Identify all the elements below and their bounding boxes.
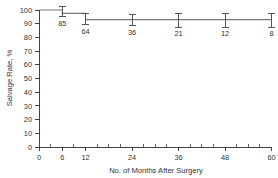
x-tick-label-48: 48 bbox=[221, 153, 229, 162]
x-tick-label-12: 12 bbox=[81, 153, 89, 162]
n-at-risk-group: 85 64 36 21 12 8 bbox=[58, 19, 273, 39]
y-tick-label-90: 90 bbox=[24, 19, 32, 28]
x-axis-ticks: 0 6 12 24 36 48 60 bbox=[37, 147, 276, 162]
x-tick-label-0: 0 bbox=[37, 153, 41, 162]
error-bar-60mo bbox=[268, 13, 275, 28]
salvage-rate-chart: 0 10 20 30 40 50 60 70 80 90 100 bbox=[0, 0, 278, 178]
y-tick-label-100: 100 bbox=[20, 6, 32, 15]
chart-figure: 0 10 20 30 40 50 60 70 80 90 100 bbox=[0, 0, 278, 178]
y-tick-label-70: 70 bbox=[24, 47, 32, 56]
error-bars-group bbox=[59, 7, 275, 28]
n-at-risk-24mo: 36 bbox=[128, 28, 136, 37]
n-at-risk-36mo: 21 bbox=[174, 29, 182, 38]
x-tick-label-24: 24 bbox=[128, 153, 136, 162]
survival-curve-group bbox=[39, 10, 272, 20]
y-tick-label-10: 10 bbox=[24, 129, 32, 138]
y-tick-label-40: 40 bbox=[24, 88, 32, 97]
error-bar-12mo bbox=[82, 13, 89, 24]
y-tick-label-30: 30 bbox=[24, 102, 32, 111]
x-tick-label-60: 60 bbox=[267, 153, 275, 162]
n-at-risk-12mo: 64 bbox=[81, 27, 89, 36]
y-axis-title: Salvage Rate, % bbox=[5, 49, 14, 106]
n-at-risk-60mo: 8 bbox=[269, 29, 273, 38]
y-tick-label-0: 0 bbox=[28, 143, 32, 152]
y-tick-label-20: 20 bbox=[24, 115, 32, 124]
n-at-risk-48mo: 12 bbox=[221, 29, 229, 38]
x-axis-title: No. of Months After Surgery bbox=[109, 166, 203, 175]
y-axis-ticks: 0 10 20 30 40 50 60 70 80 90 100 bbox=[20, 6, 39, 152]
y-tick-label-60: 60 bbox=[24, 60, 32, 69]
error-bar-6mo bbox=[59, 7, 66, 17]
survival-curve bbox=[39, 10, 272, 20]
n-at-risk-6mo: 85 bbox=[58, 19, 66, 28]
error-bar-48mo bbox=[222, 13, 229, 28]
axes-group bbox=[39, 10, 272, 147]
error-bar-36mo bbox=[175, 14, 182, 28]
x-tick-label-36: 36 bbox=[174, 153, 182, 162]
x-tick-label-6: 6 bbox=[60, 153, 64, 162]
y-tick-label-80: 80 bbox=[24, 33, 32, 42]
y-tick-label-50: 50 bbox=[24, 74, 32, 83]
